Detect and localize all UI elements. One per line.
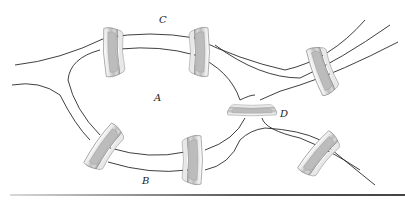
konigsberg-bridges-diagram	[0, 0, 405, 203]
bridge-7	[296, 129, 343, 180]
label-a: A	[154, 92, 161, 103]
bridge-5	[82, 122, 127, 174]
bridge-1	[102, 27, 125, 77]
bottom-rule	[10, 194, 405, 196]
bridge-6	[182, 135, 203, 184]
bridge-4	[227, 105, 276, 116]
label-b: B	[142, 175, 149, 186]
label-c: C	[159, 14, 167, 25]
bridge-3	[305, 43, 341, 96]
bridge-2	[189, 27, 210, 76]
label-d: D	[280, 108, 288, 119]
